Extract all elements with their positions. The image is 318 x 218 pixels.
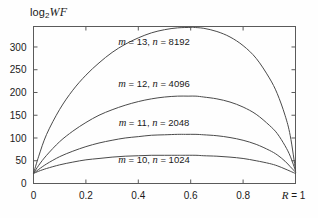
x-tick-label: R = 1 (281, 189, 306, 201)
y-tick-label: 300 (10, 42, 27, 53)
y-tick-label: 250 (10, 64, 27, 75)
curve-annotation: m = 10, n = 1024 (118, 154, 190, 165)
x-tick-label: 0 (31, 190, 37, 201)
x-tick-labels: 00.20.40.60.8R = 1 (31, 189, 306, 201)
x-tick-label: 0.8 (236, 190, 250, 201)
curve-annotations: m = 13, n = 8192m = 12, n = 4096m = 11, … (118, 36, 190, 165)
y-tick-label: 0 (21, 178, 27, 189)
figure-container: log2WF 050100150200250300 00.20.40.60.8R… (0, 0, 318, 218)
chart-plot: 050100150200250300 00.20.40.60.8R = 1 m … (0, 0, 318, 218)
y-tick-label: 50 (15, 155, 27, 166)
y-tick-labels: 050100150200250300 (10, 42, 27, 190)
y-tick-label: 100 (10, 133, 27, 144)
x-tick-label: 0.2 (79, 190, 93, 201)
curve-annotation: m = 12, n = 4096 (118, 78, 190, 89)
curve-annotation: m = 13, n = 8192 (118, 36, 190, 47)
x-tick-label: 0.6 (184, 190, 198, 201)
data-curves (34, 27, 296, 173)
x-tick-label: 0.4 (131, 190, 145, 201)
y-tick-label: 150 (10, 110, 27, 121)
y-tick-label: 200 (10, 87, 27, 98)
curve-annotation: m = 11, n = 2048 (119, 117, 190, 128)
